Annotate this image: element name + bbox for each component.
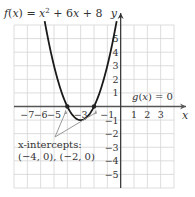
x-tick-label: −6 — [34, 109, 48, 120]
x-tick-label: −7 — [20, 109, 34, 120]
f-title: f(x) = x2 + 6x + 8 — [3, 7, 102, 20]
intercepts-heading: x-intercepts: — [18, 139, 82, 150]
x-tick-label: 1 — [131, 109, 137, 120]
y-tick-label: 2 — [113, 74, 119, 85]
x-tick-label: 3 — [158, 109, 164, 120]
intercepts-values: (−4, 0), (−2, 0) — [18, 151, 95, 162]
function-graph: xy−7−6−5−3−112354321−1−2−3−4−5f(x) = x2 … — [0, 0, 195, 197]
y-tick-label: −4 — [105, 155, 119, 166]
y-tick-label: −3 — [105, 142, 119, 153]
g-label: g(x) = 0 — [132, 91, 173, 102]
arrowhead-icon — [64, 110, 67, 115]
x-tick-label: 2 — [144, 109, 150, 120]
y-tick-label: 1 — [113, 87, 119, 98]
y-axis-label: y — [110, 7, 118, 20]
y-tick-label: 3 — [113, 60, 119, 71]
y-tick-label: −1 — [105, 115, 119, 126]
x-axis-label: x — [182, 109, 189, 122]
y-tick-label: −5 — [105, 169, 119, 180]
x-intercept-point — [92, 104, 96, 108]
y-tick-label: 4 — [113, 47, 119, 58]
arrowhead-icon — [94, 110, 97, 115]
y-tick-label: −2 — [105, 128, 119, 139]
x-intercept-point — [65, 104, 69, 108]
x-tick-label: −5 — [47, 109, 61, 120]
